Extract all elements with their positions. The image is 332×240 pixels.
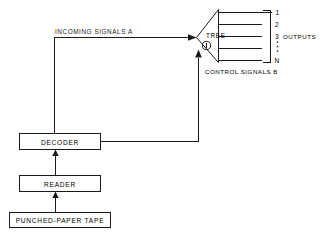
outputs-bracket bbox=[263, 11, 271, 63]
tree-label: TREE bbox=[206, 32, 226, 39]
output-number-1: 1 bbox=[276, 9, 280, 16]
diagram-svg: INCOMING SIGNALS A TREE CONTROL SIGNALS … bbox=[0, 0, 332, 240]
outputs-label: OUTPUTS bbox=[283, 33, 316, 40]
tape-to-reader-arrowhead bbox=[52, 192, 58, 199]
outputs-ellipsis-dot-2 bbox=[277, 46, 279, 48]
output-number-3: 3 bbox=[275, 33, 279, 40]
incoming-signals-arrowhead bbox=[188, 34, 197, 41]
output-number-2: 2 bbox=[275, 21, 279, 28]
outputs-ellipsis-dot-1 bbox=[277, 41, 279, 43]
outputs-ellipsis-dot-3 bbox=[277, 50, 279, 52]
reader-to-decoder-arrowhead bbox=[52, 150, 58, 157]
control-signals-path bbox=[101, 58, 199, 142]
control-signals-label: CONTROL SIGNALS B bbox=[205, 68, 278, 75]
diagram-canvas: INCOMING SIGNALS A TREE CONTROL SIGNALS … bbox=[0, 0, 332, 240]
decoder-label: DECODER bbox=[41, 139, 79, 146]
incoming-signals-label: INCOMING SIGNALS A bbox=[55, 28, 133, 35]
tape-label: PUNCHED-PAPER TAPE bbox=[16, 217, 105, 224]
reader-label: READER bbox=[44, 181, 76, 188]
output-number-n: N bbox=[275, 57, 280, 64]
control-signals-arrowhead bbox=[195, 50, 202, 58]
